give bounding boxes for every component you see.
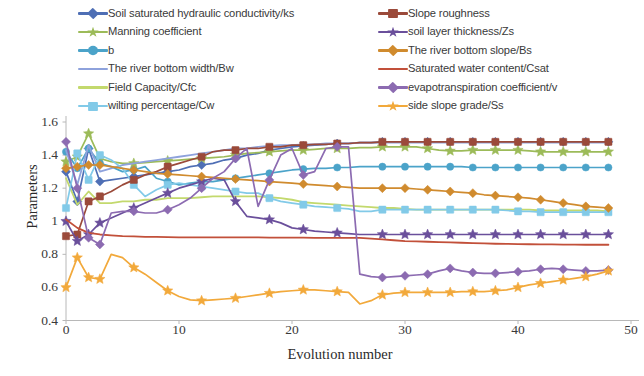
- axis-spines: [66, 116, 639, 321]
- chart-figure: Soil saturated hydraulic conductivity/ks…: [0, 0, 644, 376]
- x-tick-label: 40: [511, 322, 525, 338]
- x-tick-label: 10: [172, 322, 186, 338]
- x-axis-label: Evolution number: [190, 346, 490, 363]
- x-tick-label: 20: [285, 322, 299, 338]
- x-tick-label: 50: [624, 322, 638, 338]
- y-tick-label: 0.4: [24, 313, 58, 329]
- x-tick-label: 0: [63, 322, 70, 338]
- y-tick-label: 1.6: [24, 114, 58, 130]
- series-markers: [61, 252, 614, 305]
- plot-area: 0.40.60.811.21.41.6 01020304050 Paramete…: [0, 0, 644, 376]
- y-axis-label: Parameters: [24, 137, 41, 257]
- y-tick-label: 0.6: [24, 279, 58, 295]
- plot-canvas: [0, 0, 644, 376]
- series-line: [61, 252, 614, 305]
- x-tick-label: 30: [398, 322, 412, 338]
